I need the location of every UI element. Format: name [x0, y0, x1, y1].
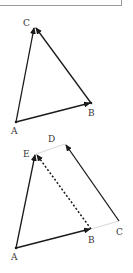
label-c-2: C [116, 227, 123, 237]
point-a-2 [15, 247, 18, 250]
label-c: C [23, 18, 30, 28]
guide-bc [91, 221, 119, 229]
vector-bc [36, 28, 91, 103]
guide-ed [36, 144, 65, 154]
vector-ab-2 [16, 229, 90, 248]
point-a [15, 121, 18, 124]
point-b [90, 102, 93, 105]
label-b: B [88, 108, 95, 118]
label-b-2: B [88, 235, 95, 245]
vector-diagram: C B A D E B C A [0, 0, 133, 273]
vector-cd [66, 145, 119, 221]
label-a-2: A [10, 252, 18, 262]
vector-be-dashed [37, 155, 91, 229]
vector-ab [16, 103, 90, 122]
vector-ae [16, 155, 35, 248]
label-e: E [23, 149, 30, 159]
figure-2-parallelogram: D E B C A [10, 134, 123, 262]
label-d: D [48, 134, 55, 144]
vector-ac [16, 28, 34, 122]
figure-1-triangle: C B A [10, 18, 95, 136]
label-a: A [10, 126, 18, 136]
